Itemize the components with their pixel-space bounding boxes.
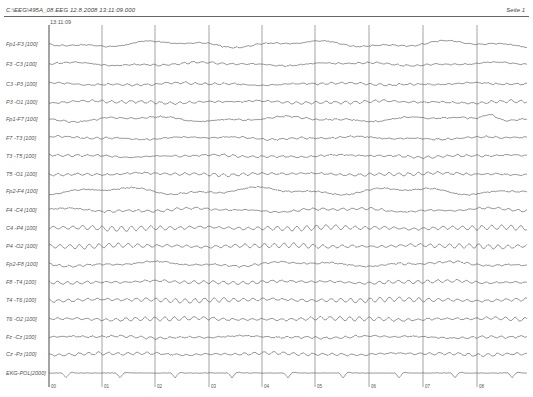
eeg-trace — [49, 114, 527, 122]
eeg-trace — [49, 135, 527, 140]
eeg-trace — [49, 171, 527, 177]
eeg-trace — [49, 82, 527, 86]
eeg-trace — [49, 40, 527, 48]
eeg-trace — [49, 61, 527, 66]
eeg-trace — [49, 372, 527, 378]
eeg-trace — [49, 279, 527, 284]
eeg-trace — [49, 100, 527, 105]
eeg-trace — [49, 243, 527, 249]
eeg-trace — [49, 335, 527, 340]
eeg-trace — [49, 297, 527, 303]
eeg-trace — [49, 225, 527, 232]
eeg-trace — [49, 352, 527, 357]
eeg-trace — [49, 316, 527, 321]
eeg-trace — [49, 207, 527, 213]
eeg-trace — [49, 154, 527, 159]
eeg-trace — [49, 186, 527, 195]
eeg-plot — [0, 0, 533, 397]
eeg-trace — [49, 261, 527, 268]
